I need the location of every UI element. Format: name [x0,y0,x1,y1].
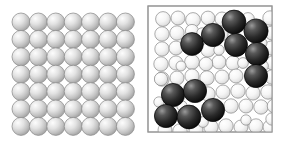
lattice-sphere [116,48,134,66]
small-sphere [241,115,251,125]
large-dark-sphere [154,104,177,127]
lattice-sphere [99,117,117,135]
small-sphere [239,99,253,113]
lattice-sphere [64,30,82,48]
lattice-sphere [82,100,100,118]
lattice-sphere [29,30,47,48]
lattice-sphere [12,30,30,48]
lattice-sphere [29,13,47,31]
lattice-sphere [64,13,82,31]
lattice-sphere [47,30,65,48]
large-dark-sphere [244,19,268,43]
small-sphere [224,99,238,113]
small-sphere [229,69,243,83]
lattice-sphere [12,48,30,66]
lattice-sphere [99,48,117,66]
lattice-sphere [99,30,117,48]
lattice-sphere [116,30,134,48]
small-sphere [199,57,213,71]
ordered-lattice-svg [0,0,141,142]
lattice-sphere [82,30,100,48]
lattice-sphere [29,65,47,83]
small-sphere [154,57,168,71]
lattice-sphere [116,83,134,101]
large-dark-sphere [201,98,224,121]
large-dark-sphere [244,64,267,87]
lattice-sphere [99,100,117,118]
lattice-sphere [99,83,117,101]
small-sphere [215,70,229,84]
lattice-sphere [64,83,82,101]
lattice-sphere [29,83,47,101]
small-sphere [212,55,226,69]
lattice-sphere [64,100,82,118]
large-dark-sphere [161,83,184,106]
lattice-sphere [116,13,134,31]
ordered-lattice-panel [0,0,141,142]
large-dark-sphere [183,79,206,102]
large-dark-sphere [222,10,246,34]
lattice-sphere [29,48,47,66]
small-sphere [246,86,260,100]
lattice-sphere [29,100,47,118]
large-dark-sphere [177,105,201,129]
lattice-sphere [116,65,134,83]
lattice-sphere [64,48,82,66]
small-sphere [185,55,200,70]
lattice-sphere [47,100,65,118]
sphere-packing-figure: Ordered versus disordered sphere packing… [0,0,282,142]
lattice-sphere [29,117,47,135]
large-dark-sphere [181,33,204,56]
lattice-sphere [99,13,117,31]
disordered-packing-svg [141,0,282,142]
lattice-sphere [82,65,100,83]
small-sphere [216,85,230,99]
large-dark-sphere [201,23,224,46]
lattice-sphere [12,83,30,101]
small-sphere [176,61,186,71]
small-sphere [170,71,184,85]
lattice-sphere [64,117,82,135]
small-sphere [155,42,169,56]
small-sphere [171,11,185,25]
lattice-sphere [116,117,134,135]
lattice-sphere [116,100,134,118]
large-dark-sphere [245,42,268,65]
small-sphere [254,100,268,114]
small-sphere [155,27,169,41]
small-sphere [156,12,171,27]
large-dark-sphere [225,34,248,57]
lattice-sphere [82,13,100,31]
small-sphere [231,84,245,98]
lattice-sphere [12,13,30,31]
lattice-sphere [47,65,65,83]
lattice-sphere [82,48,100,66]
small-sphere [154,72,167,85]
lattice-sphere [64,65,82,83]
small-sphere [219,119,233,133]
lattice-sphere [12,65,30,83]
lattice-sphere [47,117,65,135]
lattice-sphere [12,117,30,135]
lattice-sphere [47,48,65,66]
lattice-sphere [82,83,100,101]
lattice-sphere [47,83,65,101]
disordered-packing-panel [141,0,282,142]
lattice-sphere [47,13,65,31]
small-sphere [201,11,215,25]
lattice-sphere [12,100,30,118]
lattice-sphere [82,117,100,135]
lattice-sphere [99,65,117,83]
